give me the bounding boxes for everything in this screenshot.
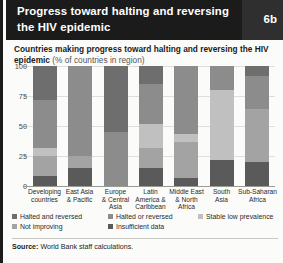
x-axis-label-line: East Asia [66,188,94,195]
chart-bar-segment [245,162,269,186]
source-note: Source: World Bank staff calculations. [12,243,133,251]
legend-swatch [198,214,203,219]
chart-bar-segment [33,176,57,186]
x-axis-label-line: South [213,188,230,195]
chart-bar-segment [210,66,234,90]
legend-label: Not improving [20,222,63,231]
legend-item: Insufficient data [108,222,164,231]
legend-item: Halted and reversed [12,212,82,221]
chart-bar-segment [139,66,163,84]
figure-panel: Progress toward halting and reversing th… [0,0,283,263]
x-axis-label-line: countries [31,196,58,203]
chart-bar-segment [68,168,92,186]
chart-bar-segment [33,148,57,156]
figure-title: Progress toward halting and reversing th… [17,4,239,35]
legend-label: Insufficient data [116,222,164,231]
x-axis-label-line: Africa [178,203,195,210]
chart-bar-segment [139,84,163,124]
footer-divider [12,238,278,239]
chart-bar-segment [245,76,269,110]
chart-bar-segment [139,168,163,186]
chart-legend: Halted and reversedHalted or reversedSta… [12,212,280,234]
legend-item: Halted or reversed [108,212,173,221]
chart-bar-segment [245,66,269,76]
x-axis-label-line: Sub-Saharan [238,188,277,195]
x-axis-label-line: & Central [102,196,130,203]
x-axis-label-line: Developing [28,188,61,195]
x-axis-label-line: Europe [105,188,126,195]
legend-label: Halted or reversed [116,212,173,221]
chart-bar-segment [174,134,198,141]
source-label: Source: [12,243,38,251]
figure-header: Progress toward halting and reversing th… [6,0,283,40]
chart-bar [139,66,163,186]
chart-bar-segment [174,142,198,178]
legend-item: Not improving [12,222,63,231]
chart-bar-segment [139,148,163,168]
chart-bar-segment [210,160,234,186]
chart-bar [174,66,198,186]
x-axis-label-line: Asia [215,196,228,203]
chart-subtitle-unit: (% of countries in region) [52,55,144,65]
chart-bar-segment [210,90,234,160]
x-axis-label-line: Middle East [169,188,203,195]
x-axis-label: LatinAmerica &Caribbean [130,188,171,211]
x-axis-label-line: & Pacific [67,196,93,203]
legend-label: Halted and reversed [20,212,82,221]
chart-bar-segment [104,132,128,186]
chart-bar-segment [68,156,92,168]
chart-bar [68,66,92,186]
chart-bar [104,66,128,186]
source-text: World Bank staff calculations. [40,243,133,251]
x-axis-label-line: Asia [109,203,122,210]
x-axis-label-line: Caribbean [135,203,165,210]
x-axis-label-line: & North [175,196,197,203]
chart-bar-segment [33,156,57,176]
axis-baseline [27,186,275,187]
chart-bar-segment [68,66,92,156]
y-axis: 0255075100 [3,66,27,190]
legend-label: Stable low prevalence [206,212,273,221]
chart-bar [210,66,234,186]
legend-swatch [12,224,17,229]
chart-bar-segment [174,178,198,186]
chart-bar [245,66,269,186]
legend-item: Stable low prevalence [198,212,273,221]
legend-swatch [12,214,17,219]
chart-bar-segment [245,109,269,162]
chart-bar-segment [139,124,163,148]
x-axis-label-line: Latin [143,188,157,195]
x-axis-label: East Asia& Pacific [59,188,100,203]
chart-bar [33,66,57,186]
x-axis-label: SouthAsia [201,188,242,203]
chart-bar-segment [33,100,57,148]
plot-area [27,66,275,186]
figure-badge-container: 6b [242,0,283,40]
chart-subtitle: Countries making progress toward halting… [14,44,276,65]
legend-swatch [108,224,113,229]
chart-bar-segment [174,66,198,134]
x-axis-label: Sub-SaharanAfrica [237,188,278,203]
x-axis-label-line: America & [135,196,165,203]
chart-bar-segment [104,66,128,132]
figure-badge: 6b [264,13,277,25]
chart-bar-segment [33,66,57,100]
x-axis-label-line: Africa [249,196,266,203]
legend-swatch [108,214,113,219]
